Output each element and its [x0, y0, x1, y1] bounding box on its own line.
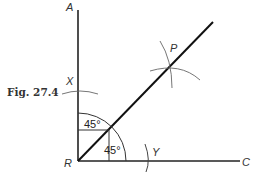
label-c: C: [242, 156, 250, 168]
arc-y: [145, 144, 148, 172]
label-y: Y: [152, 146, 160, 158]
label-a: A: [65, 1, 73, 13]
label-x: X: [65, 75, 74, 87]
geometry-figure: A X R C Y P 45° 45° Fig. 27.4: [0, 0, 256, 172]
bisector-line: [78, 22, 213, 161]
angle-upper-label: 45°: [84, 118, 101, 130]
label-p: P: [170, 42, 178, 54]
figure-caption: Fig. 27.4: [7, 86, 59, 98]
label-b: R: [64, 157, 72, 169]
angle-lower-label: 45°: [104, 144, 121, 156]
arc-x: [62, 91, 98, 94]
